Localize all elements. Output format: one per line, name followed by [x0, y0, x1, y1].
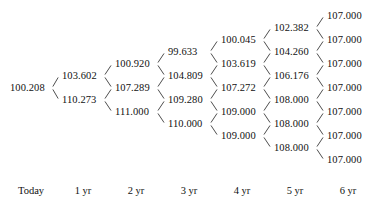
tree-node: 107.000 [327, 59, 362, 70]
tree-edge [158, 77, 164, 86]
period-label-6: 6 yr [340, 186, 357, 197]
period-label-1: 1 yr [75, 186, 92, 197]
tree-edge [158, 113, 164, 122]
tree-edge [211, 125, 217, 134]
tree-edge [317, 77, 323, 86]
tree-node: 104.809 [168, 71, 203, 82]
tree-edge [317, 29, 323, 38]
tree-node: 110.000 [168, 119, 202, 130]
tree-edge [317, 53, 323, 62]
tree-edge [211, 53, 217, 62]
tree-edge [105, 77, 111, 86]
tree-edge [211, 101, 217, 110]
tree-node: 100.045 [221, 35, 256, 46]
tree-node: 110.273 [62, 95, 96, 106]
tree-edge [264, 125, 270, 134]
tree-node: 107.289 [115, 83, 150, 94]
tree-edge [211, 65, 217, 74]
tree-node: 103.602 [62, 71, 97, 82]
tree-node: 99.633 [168, 47, 197, 58]
tree-edge [105, 89, 111, 98]
tree-node: 100.920 [115, 59, 150, 70]
tree-node: 107.272 [221, 83, 256, 94]
tree-node: 107.000 [327, 35, 362, 46]
tree-node: 109.000 [221, 107, 256, 118]
tree-node: 108.000 [274, 95, 309, 106]
tree-edge [211, 41, 217, 50]
period-label-5: 5 yr [287, 186, 304, 197]
tree-edge [264, 101, 270, 110]
tree-edge [317, 17, 323, 26]
tree-node: 108.000 [274, 119, 309, 130]
tree-edge [317, 149, 323, 158]
tree-edge [211, 89, 217, 98]
tree-edge [317, 89, 323, 98]
tree-node: 109.280 [168, 95, 203, 106]
tree-edge [317, 137, 323, 146]
tree-node: 103.619 [221, 59, 256, 70]
tree-node: 109.000 [221, 131, 256, 142]
tree-edge [317, 125, 323, 134]
tree-node: 107.000 [327, 83, 362, 94]
tree-node: 107.000 [327, 11, 362, 22]
tree-edge [317, 113, 323, 122]
tree-node: 111.000 [115, 107, 149, 118]
tree-node: 102.382 [274, 23, 309, 34]
tree-edge [105, 65, 111, 74]
tree-edge [264, 89, 270, 98]
tree-node: 106.176 [274, 71, 309, 82]
period-label-3: 3 yr [181, 186, 198, 197]
tree-edge [317, 41, 323, 50]
tree-edge [264, 41, 270, 50]
tree-edge [53, 89, 58, 98]
tree-edge [211, 113, 217, 122]
period-label-4: 4 yr [234, 186, 251, 197]
binomial-tree-figure: 100.208103.602110.273100.920107.289111.0… [0, 0, 381, 212]
tree-edge [158, 65, 164, 74]
tree-node: 108.000 [274, 143, 309, 154]
tree-connector-lines [0, 0, 381, 212]
tree-edge [264, 137, 270, 146]
tree-node: 107.000 [327, 107, 362, 118]
tree-edge [317, 65, 323, 74]
period-label-2: 2 yr [128, 186, 145, 197]
tree-node: 107.000 [327, 131, 362, 142]
tree-edge [264, 29, 270, 38]
tree-edge [264, 53, 270, 62]
tree-edge [158, 53, 164, 62]
tree-edge [317, 101, 323, 110]
tree-edge [264, 113, 270, 122]
tree-node: 107.000 [327, 155, 362, 166]
period-label-0: Today [18, 186, 44, 197]
tree-edge [53, 77, 58, 86]
tree-edge [264, 65, 270, 74]
tree-edge [158, 89, 164, 98]
tree-edge [264, 77, 270, 86]
tree-edge [158, 101, 164, 110]
tree-edge [211, 77, 217, 86]
tree-node: 100.208 [10, 83, 45, 94]
tree-edge [105, 101, 111, 110]
tree-node: 104.260 [274, 47, 309, 58]
